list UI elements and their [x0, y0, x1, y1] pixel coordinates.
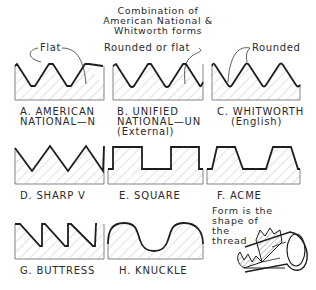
caption-line: F. ACME	[217, 191, 262, 201]
caption-sharp-v: D. SHARP V	[20, 191, 86, 201]
profile-buttress	[15, 224, 104, 259]
profile-square	[108, 147, 203, 184]
caption-line: G. BUTTRESS	[20, 266, 95, 276]
profile-acme	[207, 147, 300, 184]
caption-line: D. SHARP V	[20, 191, 86, 201]
caption-unified-national: B. UNIFIED NATIONAL—UN (External)	[117, 107, 201, 137]
profile-unified-national	[113, 48, 203, 100]
caption-american-national: A. AMERICAN NATIONAL—N	[20, 107, 96, 127]
caption-line: (English)	[217, 117, 304, 127]
form-note: Form is the shape of the thread	[212, 206, 273, 246]
caption-line: H. KNUCKLE	[119, 266, 188, 276]
note-line: thread	[212, 236, 273, 246]
profile-knuckle	[108, 223, 203, 259]
caption-buttress: G. BUTTRESS	[20, 266, 95, 276]
caption-square: E. SQUARE	[119, 191, 181, 201]
callout-rounded-or-flat: Rounded or flat	[104, 43, 190, 53]
callout-flat: Flat	[40, 43, 61, 53]
caption-line: E. SQUARE	[119, 191, 181, 201]
caption-acme: F. ACME	[217, 191, 262, 201]
diagram-title: Combination of American National & Whitw…	[0, 6, 316, 36]
title-line: Whitworth forms	[0, 26, 316, 36]
caption-knuckle: H. KNUCKLE	[119, 266, 188, 276]
callout-rounded: Rounded	[252, 43, 300, 53]
caption-whitworth: C. WHITWORTH (English)	[217, 107, 304, 127]
profile-sharp-v	[15, 146, 104, 184]
profile-american-national	[15, 48, 104, 100]
caption-line: NATIONAL—N	[20, 117, 96, 127]
caption-line: (External)	[117, 127, 201, 137]
profile-whitworth	[212, 48, 300, 100]
